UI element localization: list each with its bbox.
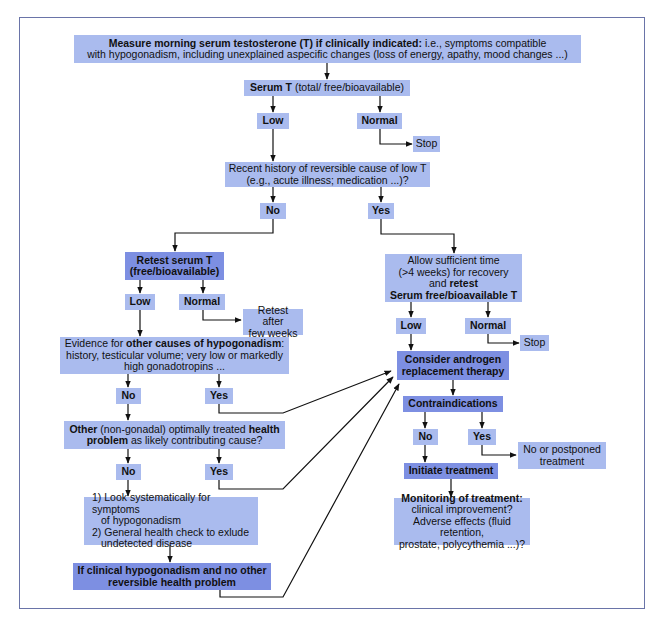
hp-bold3: problem (87, 434, 128, 446)
look-line1: 1) Look systematically for symptoms (92, 492, 255, 515)
other-causes-no-box: No (116, 388, 141, 404)
retest-after-box: Retest after few weeks (243, 309, 303, 335)
consider-line2: replacement therapy (402, 366, 505, 378)
start-line2-text: with hypogonadism, including unexplained… (87, 49, 568, 61)
allow-time-box: Allow sufficient time (>4 weeks) for rec… (385, 254, 522, 302)
reversible-no-box: No (260, 203, 286, 219)
allow-line1: Allow sufficient time (407, 255, 499, 267)
other-causes-box: Evidence for other causes of hypogonadis… (60, 337, 289, 374)
hp-bold2: health (249, 423, 280, 435)
health-problem-no-box: No (116, 464, 141, 480)
start-rest-text: i.e., symptoms compatible (422, 37, 546, 49)
allow-normal-box: Normal (465, 318, 511, 334)
health-problem-box: Other (non-gonadal) optimally treated he… (64, 421, 285, 449)
allow-line3-pre: and (429, 277, 449, 289)
hp-mid1: (non-gonadal) optimally treated (97, 423, 248, 435)
measure-testosterone-box: Measure morning serum testosterone (T) i… (74, 35, 581, 63)
serum-t-box: Serum T (total/ free/bioavailable) (244, 80, 410, 96)
postponed-line1: No or postponed (523, 444, 601, 456)
monitoring-line3: Adverse effects (fluid retention, (397, 516, 527, 539)
allow-line3-bold: retest (449, 277, 478, 289)
serum-t-bold: Serum T (250, 81, 292, 93)
other-causes-yes-box: Yes (205, 388, 233, 404)
retest-serum-t-box: Retest serum T (free/bioavailable) (125, 252, 224, 280)
monitoring-bold: Monitoring of treatment: (401, 492, 522, 504)
retest-low-box: Low (125, 294, 155, 310)
serum-low-box: Low (257, 113, 289, 129)
hp-mid2: as likely contributing cause? (128, 434, 262, 446)
monitoring-box: Monitoring of treatment: clinical improv… (394, 498, 530, 545)
other-causes-post: : (281, 337, 284, 349)
no-or-postponed-box: No or postponed treatment (518, 442, 606, 469)
consider-androgen-box: Consider androgen replacement therapy (397, 351, 509, 380)
allow-low-box: Low (396, 318, 426, 334)
look-systematically-box: 1) Look systematically for symptoms of h… (84, 497, 258, 545)
health-problem-yes-box: Yes (205, 464, 233, 480)
hp-bold1: Other (69, 423, 97, 435)
contra-no-box: No (413, 429, 438, 445)
retest-normal-box: Normal (179, 294, 225, 310)
reversible-line2: (e.g., acute illness; medication ...)? (246, 175, 408, 187)
reversible-cause-box: Recent history of reversible cause of lo… (225, 162, 430, 187)
contra-yes-box: Yes (468, 429, 496, 445)
retest-line2: (free/bioavailable) (130, 266, 219, 278)
allow-line4: Serum free/bioavailable T (390, 289, 517, 301)
other-causes-line3: high gonadotropins ... (124, 361, 225, 373)
if-clinical-box: If clinical hypogonadism and no other re… (73, 563, 271, 590)
initiate-treatment-box: Initiate treatment (404, 463, 498, 479)
reversible-line1: Recent history of reversible cause of lo… (229, 163, 427, 175)
contraindications-box: Contraindications (403, 396, 503, 412)
start-bold-text: Measure morning serum testosterone (T) i… (109, 37, 422, 49)
if-clinical-line1: If clinical hypogonadism and no other (77, 565, 266, 577)
other-causes-bold: other causes of hypogonadism (126, 337, 281, 349)
serum-t-rest: (total/ free/bioavailable) (292, 81, 404, 93)
stop-box-1: Stop (413, 136, 440, 152)
reversible-yes-box: Yes (368, 203, 394, 219)
monitoring-line4: prostate, polycythemia ...)? (399, 539, 525, 551)
stop-box-2: Stop (520, 335, 549, 351)
if-clinical-line2: reversible health problem (108, 577, 236, 589)
look-line4: undetected disease (92, 538, 192, 550)
retest-after-line1: Retest after (246, 305, 300, 328)
consider-line1: Consider androgen (405, 354, 501, 366)
serum-normal-box: Normal (357, 113, 402, 129)
other-causes-pre: Evidence for (65, 337, 126, 349)
postponed-line2: treatment (540, 456, 584, 468)
